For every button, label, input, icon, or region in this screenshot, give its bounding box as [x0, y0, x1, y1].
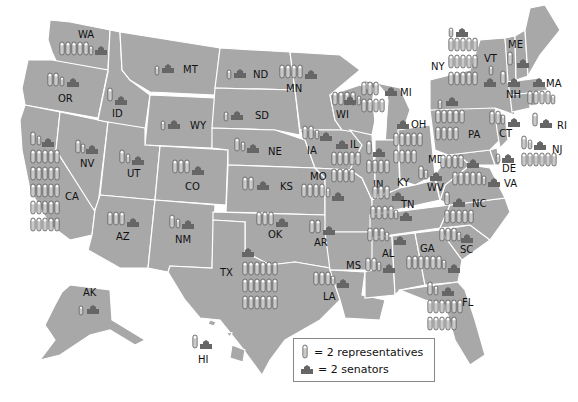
- label-ct: CT: [499, 128, 513, 139]
- label-ks: KS: [280, 181, 293, 192]
- label-az: AZ: [116, 231, 130, 242]
- state-co[interactable]: [155, 146, 228, 205]
- label-id: ID: [112, 108, 123, 119]
- label-wi: WI: [336, 109, 349, 120]
- state-me[interactable]: [525, 5, 560, 76]
- legend-senators-label: = 2 senators: [318, 363, 389, 376]
- state-hi[interactable]: [208, 320, 216, 326]
- label-tx: TX: [219, 267, 233, 278]
- label-ak: AK: [83, 287, 97, 298]
- label-ri: RI: [557, 120, 567, 131]
- label-ca: CA: [65, 191, 79, 202]
- label-nc: NC: [472, 198, 486, 209]
- legend-row-representatives: = 2 representatives: [300, 344, 423, 360]
- label-sd: SD: [255, 110, 269, 121]
- legend-row-senators: = 2 senators: [300, 363, 389, 376]
- label-ga: GA: [420, 243, 435, 254]
- label-pa: PA: [468, 129, 480, 140]
- label-mn: MN: [286, 83, 302, 94]
- label-vt: VT: [484, 53, 498, 64]
- label-ar: AR: [314, 237, 328, 248]
- label-mi: MI: [400, 87, 412, 98]
- label-ne: NE: [268, 146, 282, 157]
- label-wv: WV: [427, 182, 444, 193]
- label-ut: UT: [127, 168, 141, 179]
- label-ia: IA: [307, 145, 317, 156]
- label-hi: HI: [198, 354, 208, 365]
- capitol-building-icon: [300, 364, 314, 375]
- label-nd: ND: [253, 69, 268, 80]
- label-mo: MO: [310, 171, 327, 182]
- label-va: VA: [504, 178, 517, 189]
- capsule-icon: [300, 344, 310, 360]
- label-me: ME: [508, 39, 523, 50]
- ny-icons: [449, 38, 477, 85]
- label-nv: NV: [80, 158, 94, 169]
- label-wa: WA: [78, 29, 94, 40]
- label-fl: FL: [462, 297, 474, 308]
- state-hi-2[interactable]: [226, 332, 232, 337]
- legend-representatives-label: = 2 representatives: [314, 346, 423, 359]
- label-co: CO: [185, 181, 200, 192]
- label-nj: NJ: [552, 144, 562, 155]
- legend: = 2 representatives = 2 senators: [293, 338, 435, 382]
- label-sc: SC: [460, 244, 473, 255]
- label-il: IL: [350, 139, 359, 150]
- label-la: LA: [323, 291, 336, 302]
- us-congress-map: WA OR ID MT WY CA NV UT CO: [0, 0, 578, 402]
- label-ky: KY: [397, 177, 410, 188]
- label-ny: NY: [431, 61, 445, 72]
- label-nm: NM: [175, 234, 191, 245]
- label-tn: TN: [400, 199, 415, 210]
- label-al: AL: [382, 248, 395, 259]
- label-mt: MT: [183, 64, 199, 75]
- label-nh: NH: [506, 89, 521, 100]
- label-de: DE: [502, 163, 516, 174]
- label-oh: OH: [411, 119, 426, 130]
- label-wy: WY: [190, 120, 207, 131]
- label-ma: MA: [546, 78, 562, 89]
- label-ok: OK: [268, 229, 283, 240]
- label-ms: MS: [346, 260, 361, 271]
- label-or: OR: [58, 93, 73, 104]
